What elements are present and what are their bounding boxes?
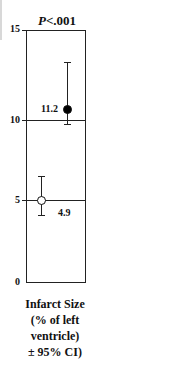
gridline-10 <box>26 120 86 121</box>
gridline-5 <box>26 200 86 201</box>
xlabel-line-2: (% of left <box>10 312 100 328</box>
xlabel-line-1: Infarct Size <box>10 296 100 312</box>
error-cap-lower-filled <box>64 124 71 125</box>
data-point-filled <box>63 105 72 114</box>
error-cap-upper-filled <box>64 62 71 63</box>
x-axis-label: Infarct Size (% of left ventricle) ± 95%… <box>10 296 100 360</box>
error-bar-filled <box>67 62 68 124</box>
data-point-open <box>37 196 46 205</box>
xlabel-line-4: ± 95% CI) <box>10 344 100 360</box>
data-label-open: 4.9 <box>58 207 71 218</box>
ytick-10 <box>22 120 26 121</box>
ytick-label-0: 0 <box>2 276 20 287</box>
plot-area <box>26 30 86 283</box>
xlabel-line-3: ventricle) <box>10 328 100 344</box>
left-edge-divider <box>0 0 2 40</box>
error-cap-lower-open <box>38 215 45 216</box>
ytick-label-15: 15 <box>2 23 20 34</box>
data-label-filled: 11.2 <box>41 103 58 114</box>
error-cap-upper-open <box>38 176 45 177</box>
ytick-15 <box>22 30 26 31</box>
chart-title: P<.001 <box>26 13 88 29</box>
title-p: P <box>38 13 46 28</box>
ytick-label-5: 5 <box>2 194 20 205</box>
ytick-label-10: 10 <box>2 114 20 125</box>
title-rest: <.001 <box>46 13 76 28</box>
ytick-5 <box>22 200 26 201</box>
